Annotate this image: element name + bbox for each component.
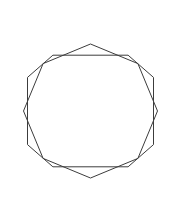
star-rosette-figure bbox=[0, 0, 181, 199]
